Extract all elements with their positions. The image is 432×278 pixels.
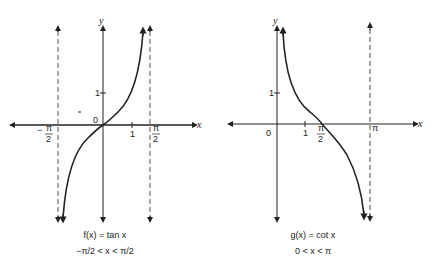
x-tick-pi: π	[372, 123, 378, 133]
svg-text:π: π	[153, 123, 159, 133]
svg-text:π: π	[46, 123, 52, 133]
origin-label: 0	[266, 128, 271, 138]
y-tick-1: 1	[269, 88, 274, 98]
x-axis-label: x	[196, 119, 202, 130]
tan-graph: y x 0 1 1 − π 2 π 2	[12, 15, 202, 220]
tan-caption: f(x) = tan x	[45, 230, 165, 240]
x-tick-1: 1	[303, 128, 308, 138]
svg-text:2: 2	[318, 134, 323, 144]
y-tick-1: 1	[95, 88, 100, 98]
cot-caption: g(x) = cot x	[253, 230, 373, 240]
svg-text:−: −	[37, 125, 42, 135]
svg-text:2: 2	[153, 134, 158, 144]
y-axis-label: y	[272, 15, 278, 26]
svg-text:π: π	[318, 123, 324, 133]
svg-text:2: 2	[46, 134, 51, 144]
y-axis-label: y	[98, 15, 104, 26]
x-tick-1: 1	[130, 129, 135, 139]
tan-domain: −π/2 < x < π/2	[45, 246, 165, 256]
x-axis-label: x	[417, 118, 423, 129]
cot-domain: 0 < x < π	[253, 246, 373, 256]
cot-graph: y x 0 1 1 π 2 π	[230, 15, 423, 220]
origin-label: 0	[93, 115, 98, 125]
